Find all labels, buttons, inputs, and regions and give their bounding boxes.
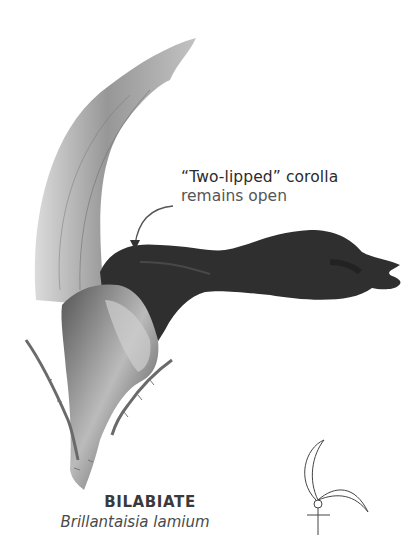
callout-subtitle: remains open xyxy=(181,187,338,205)
flower-type-label: BILABIATE xyxy=(30,493,270,511)
curved-arrow-icon xyxy=(130,206,173,250)
flower-illustration xyxy=(0,0,415,544)
corolla-callout: “Two-lipped” corolla remains open xyxy=(181,168,338,205)
species-name: Brillantaisia lamium xyxy=(0,513,270,531)
figure-caption: BILABIATE Brillantaisia lamium xyxy=(0,493,270,531)
callout-title: “Two-lipped” corolla xyxy=(181,168,338,186)
bilabiate-floral-diagram-icon xyxy=(305,440,368,535)
